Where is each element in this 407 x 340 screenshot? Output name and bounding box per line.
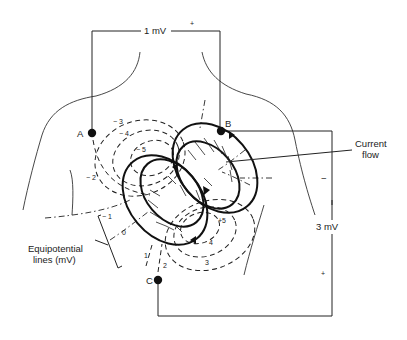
label-neg4: − 4 <box>119 130 129 137</box>
label-zero: 0 <box>122 229 126 236</box>
current-flow-annotation: Current flow <box>226 138 387 162</box>
lead-plus-sign: + <box>321 270 325 277</box>
label-pos3: 3 <box>205 259 209 266</box>
current-flow-label-1: Current <box>355 138 387 149</box>
label-neg2: − 2 <box>86 174 96 181</box>
equipotential-label-1: Equipotential <box>28 243 83 254</box>
arrow-icon <box>203 186 210 195</box>
torso-outline <box>23 52 315 275</box>
dipole-diagram: 1 mV + 3 mV − + <box>0 0 407 340</box>
field-lines <box>45 100 272 240</box>
electrode-dot <box>217 127 225 135</box>
label-neg5: − 5 <box>136 146 146 153</box>
arrow-icon <box>229 131 235 139</box>
label-neg1: − 1 <box>102 213 112 220</box>
electrode-label-c: C <box>146 275 153 286</box>
label-pos5: +5 <box>218 217 226 224</box>
label-pos4: 4 <box>209 239 213 246</box>
electrode-label-b: B <box>225 118 231 129</box>
label-neg3: − 3 <box>113 118 123 125</box>
lead-i-plus-sign: + <box>190 20 194 27</box>
electrode-dot <box>154 276 162 284</box>
electrode-label-a: A <box>77 128 84 139</box>
current-flow-label-2: flow <box>362 149 379 160</box>
label-pos1: 1 <box>144 252 148 259</box>
equipotential-annotation: Equipotential lines (mV) <box>28 215 122 268</box>
lead-i-voltage: 1 mV <box>144 25 167 36</box>
equipotential-label-2: lines (mV) <box>33 254 76 265</box>
label-pos2: 2 <box>163 262 167 269</box>
electrode-c: C <box>146 275 162 286</box>
lead-voltage-3mv: 3 mV <box>316 221 339 232</box>
electrode-dot <box>88 129 96 137</box>
electrode-a: A <box>77 128 96 139</box>
lead-minus-sign: − <box>321 173 327 184</box>
